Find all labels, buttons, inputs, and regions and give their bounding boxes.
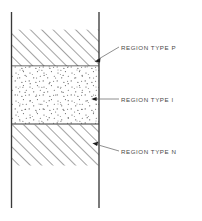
region-i-fill-extra — [12, 67, 100, 125]
region-p-fill — [12, 29, 100, 66]
region-i — [12, 67, 100, 125]
pin-structure-diagram: REGION TYPE P REGION TYPE I REGION TYPE … — [0, 0, 202, 221]
region-p-label: REGION TYPE P — [121, 44, 176, 51]
region-p — [12, 29, 100, 66]
region-n — [12, 125, 100, 167]
region-n-fill — [12, 125, 100, 167]
region-i-label: REGION TYPE I — [121, 96, 174, 103]
region-n-label: REGION TYPE N — [121, 148, 177, 155]
